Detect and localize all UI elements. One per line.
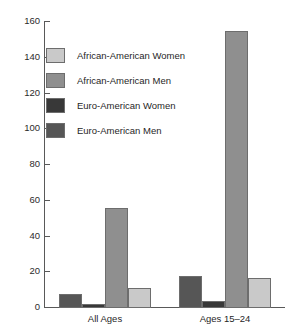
y-tick-label: 160 [0, 16, 40, 26]
bar [128, 288, 151, 308]
legend-label: African-American Women [77, 50, 185, 61]
legend-swatch-icon [46, 98, 65, 113]
legend-item: Euro-American Women [46, 93, 185, 118]
y-tick-label: 100 [0, 124, 40, 134]
x-axis-group-label: All Ages [45, 313, 165, 324]
legend-swatch-icon [46, 73, 65, 88]
x-axis-group-label: Ages 15–24 [165, 313, 285, 324]
y-tick-label: 60 [0, 195, 40, 205]
legend-swatch-icon [46, 48, 65, 63]
legend-label: Euro-American Women [77, 100, 176, 111]
y-tick-label: 20 [0, 267, 40, 277]
bar [202, 301, 225, 308]
legend-label: Euro-American Men [77, 125, 161, 136]
bar [248, 278, 271, 308]
bar [82, 304, 105, 308]
chart-legend: African-American WomenAfrican-American M… [46, 43, 185, 143]
bar [225, 31, 248, 308]
y-tick-label: 120 [0, 88, 40, 98]
y-tick-label: 80 [0, 159, 40, 169]
y-tick-label: 140 [0, 52, 40, 62]
bar [179, 276, 202, 308]
bar [105, 208, 128, 308]
legend-item: African-American Women [46, 43, 185, 68]
y-tick-label: 40 [0, 231, 40, 241]
legend-swatch-icon [46, 123, 65, 138]
legend-label: African-American Men [77, 75, 171, 86]
bar [59, 294, 82, 308]
legend-item: Euro-American Men [46, 118, 185, 143]
bar-chart: 020406080100120140160 All AgesAges 15–24… [0, 0, 290, 336]
y-tick-label: 0 [0, 302, 40, 312]
legend-item: African-American Men [46, 68, 185, 93]
